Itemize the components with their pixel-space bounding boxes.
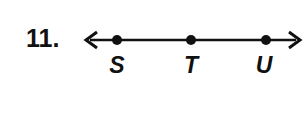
point-label-t: T <box>184 52 198 79</box>
point-label-s: S <box>109 52 124 79</box>
point-label-u: U <box>256 52 273 79</box>
point-t-dot <box>186 35 196 45</box>
point-u-dot <box>261 35 271 45</box>
point-s-dot <box>112 35 122 45</box>
